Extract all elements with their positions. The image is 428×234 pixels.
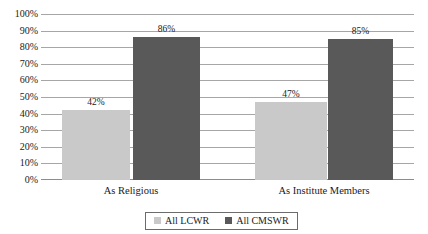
bar-value-label-as-religious-all-lcwr: 42%: [62, 97, 130, 108]
y-axis-tick-label: 0%: [0, 175, 38, 185]
x-axis-category-label-as-religious: As Religious: [62, 185, 200, 196]
bar-as-institute-members-all-lcwr[interactable]: [255, 102, 327, 180]
x-axis-category-label-as-institute-members: As Institute Members: [255, 185, 393, 196]
legend-entry-all-cmswr[interactable]: All CMSWR: [225, 215, 289, 226]
y-axis-tick-labels: 100% 90% 80% 70% 60% 50% 40% 30% 20% 10%…: [0, 14, 38, 180]
y-axis-tick-label: 100%: [0, 9, 38, 19]
bar-value-label-as-religious-all-cmswr: 86%: [133, 24, 200, 35]
y-axis-tick-label: 60%: [0, 75, 38, 85]
bar-as-religious-all-cmswr[interactable]: [133, 37, 200, 180]
y-axis-tick-label: 80%: [0, 42, 38, 52]
bar-as-institute-members-all-cmswr[interactable]: [328, 39, 393, 180]
dark-gray-swatch-icon: [225, 217, 232, 224]
y-axis-tick-label: 70%: [0, 59, 38, 69]
legend-entry-all-lcwr[interactable]: All LCWR: [154, 215, 209, 226]
grouped-bar-chart: 100% 90% 80% 70% 60% 50% 40% 30% 20% 10%…: [0, 0, 428, 234]
y-axis-tick-label: 30%: [0, 125, 38, 135]
plot-area: 42% 86% 47% 85%: [41, 14, 414, 180]
y-axis-tick-label: 40%: [0, 109, 38, 119]
y-axis-tick-label: 20%: [0, 142, 38, 152]
legend-label-all-cmswr: All CMSWR: [236, 215, 289, 226]
y-axis-tick-label: 10%: [0, 158, 38, 168]
legend-label-all-lcwr: All LCWR: [165, 215, 209, 226]
bar-value-label-as-institute-members-all-lcwr: 47%: [255, 89, 327, 100]
y-axis-tick-label: 90%: [0, 26, 38, 36]
gridline: [41, 14, 414, 15]
bar-as-religious-all-lcwr[interactable]: [62, 110, 130, 180]
bar-value-label-as-institute-members-all-cmswr: 85%: [328, 26, 393, 37]
y-axis-tick-label: 50%: [0, 92, 38, 102]
light-gray-swatch-icon: [154, 217, 161, 224]
chart-legend: All LCWR All CMSWR: [145, 212, 298, 230]
